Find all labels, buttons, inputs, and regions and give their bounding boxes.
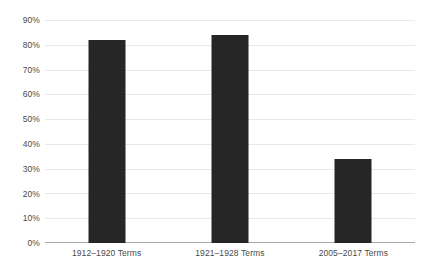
- y-axis-tick-label: 10%: [6, 214, 40, 223]
- y-axis-tick-label: 50%: [6, 115, 40, 124]
- y-axis-tick-label: 70%: [6, 66, 40, 75]
- y-axis-tick-label: 60%: [6, 90, 40, 99]
- bar-slot-1: [45, 20, 168, 243]
- plot-area: [45, 20, 415, 243]
- bar-1912-1920-terms[interactable]: [88, 40, 125, 243]
- x-axis-tick-label-2: 1921–1928 Terms: [168, 249, 291, 258]
- bar-slot-2: [168, 20, 291, 243]
- y-axis-tick-label: 0%: [6, 239, 40, 248]
- bar-slot-3: [292, 20, 415, 243]
- bar-1921-1928-terms[interactable]: [211, 35, 248, 243]
- x-axis-tick-label-1: 1912–1920 Terms: [45, 249, 168, 258]
- y-axis-tick-label: 30%: [6, 165, 40, 174]
- bar-2005-2017-terms[interactable]: [335, 159, 372, 243]
- y-axis-tick-label: 90%: [6, 16, 40, 25]
- bar-chart: 90% 80% 70% 60% 50% 40% 30% 20% 10% 0%: [0, 0, 425, 279]
- y-axis-tick-label: 20%: [6, 190, 40, 199]
- bars-layer: [45, 20, 415, 243]
- y-axis-tick-label: 40%: [6, 140, 40, 149]
- y-axis-tick-label: 80%: [6, 41, 40, 50]
- x-axis-tick-label-3: 2005–2017 Terms: [292, 249, 415, 258]
